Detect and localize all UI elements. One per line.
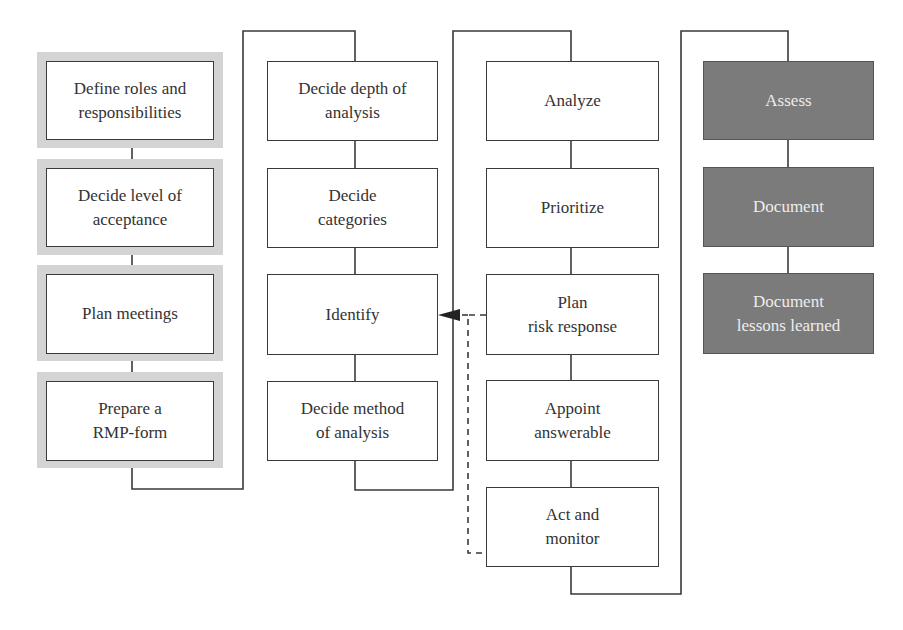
step-label: Decide categories [318, 184, 387, 232]
arrowhead-icon [438, 309, 460, 321]
feedback-dashed-line [458, 315, 486, 553]
step-act-and-monitor: Act and monitor [486, 487, 659, 567]
step-label: Plan risk response [528, 291, 617, 339]
step-decide-categories: Decide categories [267, 168, 438, 248]
step-label: Prioritize [541, 196, 604, 220]
step-label: Appoint answerable [534, 397, 610, 445]
step-define-roles: Define roles and responsibilities [46, 61, 214, 140]
step-label: Analyze [544, 89, 601, 113]
step-document-lessons-learned: Document lessons learned [703, 273, 874, 354]
step-label: Assess [765, 89, 811, 113]
step-label: Define roles and responsibilities [74, 77, 186, 125]
step-label: Plan meetings [82, 302, 178, 326]
step-label: Identify [326, 303, 380, 327]
step-prepare-rmp-form: Prepare a RMP-form [46, 381, 214, 461]
step-identify: Identify [267, 274, 438, 355]
step-appoint-answerable: Appoint answerable [486, 380, 659, 461]
step-label: Prepare a RMP-form [93, 397, 168, 445]
step-label: Document [753, 195, 824, 219]
step-document: Document [703, 167, 874, 247]
step-decide-depth-of-analysis: Decide depth of analysis [267, 61, 438, 141]
step-assess: Assess [703, 61, 874, 140]
step-decide-method-of-analysis: Decide method of analysis [267, 381, 438, 461]
risk-management-flowchart: Define roles and responsibilities Decide… [0, 0, 903, 630]
step-prioritize: Prioritize [486, 168, 659, 248]
step-label: Decide method of analysis [301, 397, 404, 445]
step-label: Decide level of acceptance [78, 184, 182, 232]
step-label: Decide depth of analysis [298, 77, 407, 125]
step-label: Act and monitor [546, 503, 600, 551]
step-analyze: Analyze [486, 61, 659, 141]
step-label: Document lessons learned [737, 290, 840, 338]
step-plan-risk-response: Plan risk response [486, 274, 659, 355]
step-decide-level-of-acceptance: Decide level of acceptance [46, 168, 214, 247]
step-plan-meetings: Plan meetings [46, 274, 214, 354]
